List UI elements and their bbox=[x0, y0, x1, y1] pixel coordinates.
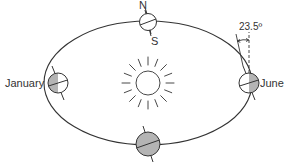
earth-top-icon bbox=[140, 9, 157, 36]
june-label: June bbox=[260, 78, 284, 89]
south-label: S bbox=[151, 36, 158, 47]
north-label: N bbox=[139, 0, 147, 11]
january-label: January bbox=[5, 78, 44, 89]
tilt-angle-label: 23.5º bbox=[239, 22, 262, 32]
earth-january-icon bbox=[48, 66, 68, 100]
earth-bottom-icon bbox=[136, 126, 160, 162]
sun-icon bbox=[122, 57, 174, 109]
